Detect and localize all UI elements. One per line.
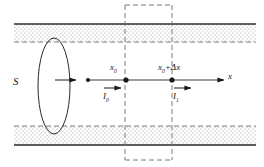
point-label-x0: x0 [110, 63, 117, 74]
point-label-x0-plus-dx: x0+Δx [158, 63, 180, 74]
current-label-I0: I0 [103, 92, 109, 103]
point-label-x0-subscript: 0 [114, 68, 117, 74]
current-label-I0-subscript: 0 [106, 97, 109, 103]
axis-dot-x0 [123, 77, 128, 82]
x-axis-label: x [228, 72, 232, 81]
axis-dot-x0-plus-dx [169, 77, 174, 82]
surface-label-S: S [13, 76, 19, 87]
current-label-I1-subscript: 1 [176, 97, 179, 103]
cross-section-surface-ellipse [38, 38, 70, 134]
physics-diagram-figure: S x0 x0+Δx x I0 I1 [0, 0, 264, 167]
point-label-x1-delta: +Δx [165, 62, 180, 72]
current-label-I1: I1 [173, 92, 179, 103]
diagram-canvas [0, 0, 264, 167]
lower-wall-band [14, 126, 256, 145]
axis-dot-origin [86, 78, 90, 82]
